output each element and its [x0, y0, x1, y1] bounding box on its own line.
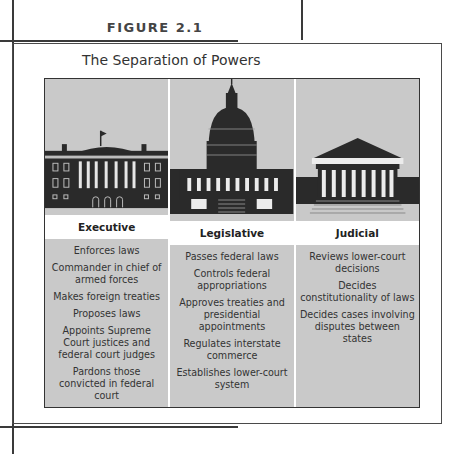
power-item: Decides constitutionality of laws — [300, 280, 415, 304]
power-item: Pardons those convicted in federal court — [49, 366, 164, 402]
branch-header: Executive — [45, 215, 168, 239]
capitol-building-icon — [170, 79, 293, 221]
power-item: Regulates interstate commerce — [174, 338, 289, 362]
power-item: Commander in chief of armed forces — [49, 262, 164, 286]
figure-label: FIGURE 2.1 — [0, 20, 310, 35]
power-item: Makes foreign treaties — [49, 291, 164, 303]
branch-powers-list: Reviews lower-court decisions Decides co… — [296, 245, 419, 350]
branch-powers-list: Passes federal laws Controls federal app… — [170, 245, 293, 396]
supreme-court-icon — [296, 79, 419, 221]
separation-of-powers-panel: Executive Enforces laws Commander in chi… — [44, 78, 420, 408]
power-item: Approves treaties and presidential appoi… — [174, 297, 289, 333]
power-item: Passes federal laws — [174, 251, 289, 263]
power-item: Decides cases involving disputes between… — [300, 309, 415, 345]
column-judicial: Judicial Reviews lower-court decisions D… — [296, 79, 419, 407]
power-item: Appoints Supreme Court justices and fede… — [49, 325, 164, 361]
figure-title: The Separation of Powers — [82, 52, 261, 68]
column-legislative: Legislative Passes federal laws Controls… — [170, 79, 295, 407]
branch-powers-list: Enforces laws Commander in chief of arme… — [45, 239, 168, 407]
branch-header: Judicial — [296, 221, 419, 245]
power-item: Proposes laws — [49, 308, 164, 320]
column-executive: Executive Enforces laws Commander in chi… — [45, 79, 170, 407]
white-house-icon — [45, 79, 168, 215]
branch-header: Legislative — [170, 221, 293, 245]
power-item: Controls federal appropriations — [174, 268, 289, 292]
power-item: Establishes lower-court system — [174, 367, 289, 391]
power-item: Enforces laws — [49, 245, 164, 257]
power-item: Reviews lower-court decisions — [300, 251, 415, 275]
rule-top-horizontal — [0, 40, 238, 42]
rule-bottom-horizontal — [0, 426, 238, 428]
